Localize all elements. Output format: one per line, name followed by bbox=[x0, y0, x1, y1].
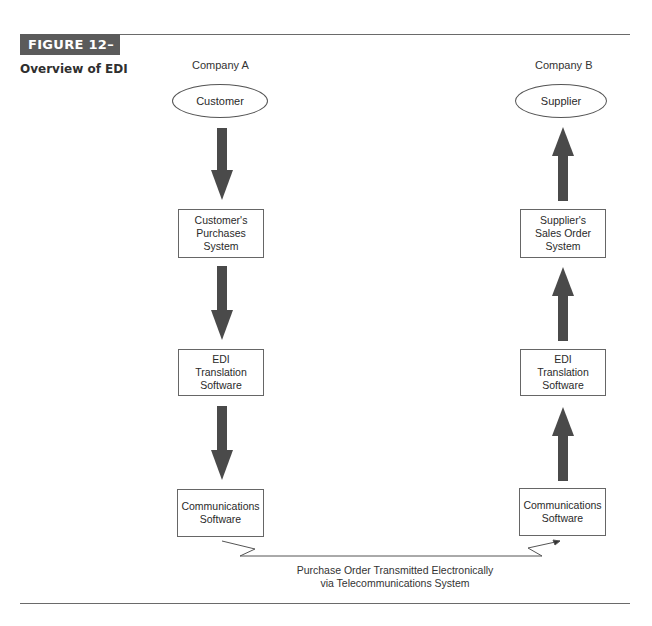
arrow-down-icon bbox=[211, 128, 233, 200]
caption-line-1: Purchase Order Transmitted Electronicall… bbox=[250, 564, 540, 577]
arrows-layer bbox=[0, 0, 652, 626]
arrow-down-icon bbox=[211, 266, 233, 340]
arrow-up-icon bbox=[552, 267, 574, 341]
link-caption: Purchase Order Transmitted Electronicall… bbox=[250, 564, 540, 590]
arrow-down-icon bbox=[211, 406, 233, 480]
telecom-link-icon bbox=[222, 540, 560, 556]
arrow-up-icon bbox=[552, 127, 574, 201]
arrow-up-icon bbox=[552, 407, 574, 481]
caption-line-2: via Telecommunications System bbox=[250, 577, 540, 590]
